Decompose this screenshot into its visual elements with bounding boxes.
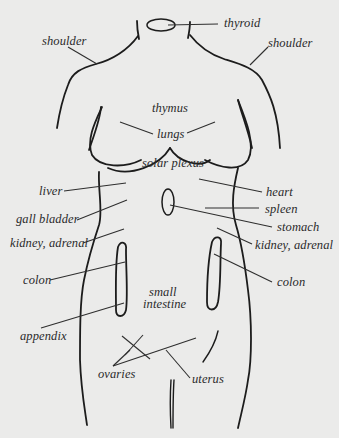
label-spleen: spleen (265, 203, 298, 216)
stomach-outline (162, 189, 174, 215)
breast-left (90, 107, 141, 165)
label-heart: heart (266, 186, 293, 199)
label-gall-bladder: gall bladder (16, 213, 79, 226)
label-colon-right: colon (277, 276, 305, 289)
label-small-intestine-line2: intestine (143, 298, 186, 311)
label-colon-left: colon (23, 274, 51, 287)
ovaries-leader-right (113, 338, 196, 366)
shoulder-right-outline (190, 35, 280, 148)
waist-right (233, 168, 251, 428)
uterus-leader (166, 350, 190, 378)
legs-divide-right (173, 380, 174, 428)
lungs-right-leader (187, 122, 215, 133)
shoulder-left-leader (68, 47, 97, 64)
label-ovaries: ovaries (98, 368, 136, 381)
shoulder-right-leader-line (250, 47, 268, 65)
gall-bladder-leader (77, 200, 127, 220)
label-lungs: lungs (157, 128, 185, 141)
liver-leader (64, 183, 126, 191)
ovary-x-a (122, 336, 150, 359)
label-kidney-adrenal-right: kidney, adrenal (255, 239, 333, 252)
lungs-left-leader (120, 122, 153, 134)
label-stomach: stomach (277, 221, 319, 234)
shoulder-left-outline (57, 36, 138, 128)
appendix-leader (41, 303, 124, 328)
pelvis-right-curve (203, 331, 218, 362)
colon-right-outline (207, 237, 221, 309)
label-solar-plexus: solar plexus (142, 157, 204, 170)
kidney-left-leader (83, 229, 124, 243)
legs-divide-left (170, 380, 171, 428)
label-kidney-adrenal-left: kidney, adrenal (10, 237, 88, 250)
body-organ-diagram: thyroid shoulder shoulder thymus lungs s… (0, 0, 339, 438)
heart-leader (199, 179, 262, 192)
waist-left (80, 172, 101, 425)
label-uterus: uterus (192, 373, 224, 386)
label-shoulder-right: shoulder (268, 37, 313, 50)
label-shoulder-left: shoulder (42, 35, 87, 48)
breast-right (205, 100, 251, 168)
label-liver: liver (39, 185, 62, 198)
label-thymus: thymus (152, 102, 188, 115)
label-thyroid: thyroid (224, 17, 260, 30)
label-appendix: appendix (20, 330, 67, 343)
kidney-right-leader (217, 228, 252, 244)
